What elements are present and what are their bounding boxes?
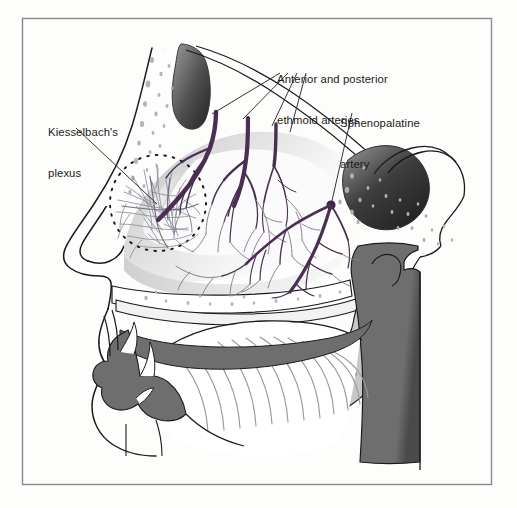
leader-ethmoid-1 [212, 73, 280, 114]
label-sphenopalatine-artery: Sphenopalatine artery [340, 90, 420, 199]
label-sphenopalatine-line1: Sphenopalatine [340, 117, 420, 131]
label-kiesselbach-line1: Kiesselbach's [48, 126, 118, 140]
anatomy-figure: Kiesselbach's plexus Anterior and poster… [0, 0, 517, 508]
label-ethmoid-line1: Anterior and posterior [277, 73, 388, 87]
label-kiesselbach-line2: plexus [48, 167, 118, 181]
label-kiesselbach-plexus: Kiesselbach's plexus [48, 99, 118, 208]
label-sphenopalatine-line2: artery [340, 158, 420, 172]
pharyngeal-wall [351, 243, 420, 464]
nasal-cavity-illustration [0, 0, 517, 508]
